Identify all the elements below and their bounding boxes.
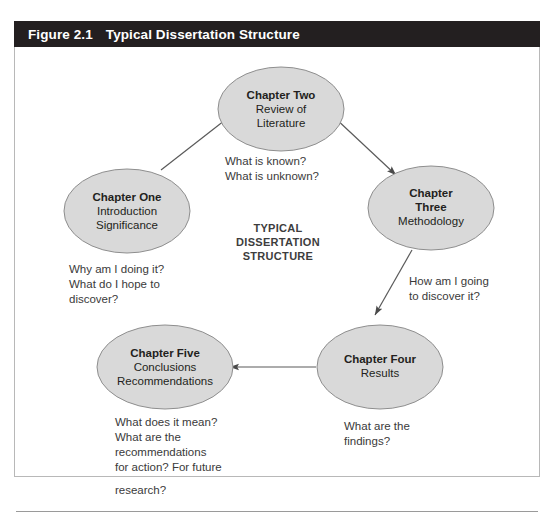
chapter-five-title: Chapter Five <box>130 347 200 359</box>
chapter-one-line-2: Significance <box>96 219 158 231</box>
annotation-below-five-line-2: What are the <box>115 431 181 443</box>
figure-title-label: Typical Dissertation Structure <box>106 27 300 42</box>
annotation-one-to-two-line-2: What is unknown? <box>225 170 319 182</box>
bottom-divider <box>16 511 538 512</box>
center-label-line-3: STRUCTURE <box>243 250 314 262</box>
annotation-three-to-four-line-2: to discover it? <box>409 290 480 302</box>
chapter-two-title: Chapter Two <box>247 89 316 101</box>
center-label-line-1: TYPICAL <box>253 222 302 234</box>
figure-number-label: Figure 2.1 <box>28 27 93 42</box>
node-chapter-five[interactable]: Chapter Five Conclusions Recommendations <box>97 325 233 409</box>
node-chapter-four[interactable]: Chapter Four Results <box>317 325 443 409</box>
arrow-two-to-three <box>334 117 396 175</box>
figure-title-bar: Figure 2.1 Typical Dissertation Structur… <box>14 21 540 47</box>
chapter-two-line-1: Review of <box>256 103 307 115</box>
annotation-below-four-line-1: What are the <box>344 420 410 432</box>
dissertation-structure-diagram: Chapter One Introduction Significance Ch… <box>14 47 540 477</box>
annotation-below-five-line-5: research? <box>115 484 166 496</box>
annotation-below-five: What does it mean? What are the recommen… <box>115 416 222 473</box>
annotation-below-five-line-4: for action? For future <box>115 461 222 473</box>
annotation-below-five-overflow: research? <box>115 484 166 496</box>
annotation-one-to-two: What is known? What is unknown? <box>225 155 319 182</box>
chapter-three-title-line-1: Chapter <box>409 187 453 199</box>
node-chapter-one[interactable]: Chapter One Introduction Significance <box>64 169 190 253</box>
annotation-three-to-four: How am I going to discover it? <box>409 275 489 302</box>
annotation-below-four-line-2: findings? <box>344 435 390 447</box>
center-label: TYPICAL DISSERTATION STRUCTURE <box>236 222 320 262</box>
annotation-below-five-line-1: What does it mean? <box>115 416 217 428</box>
chapter-two-line-2: Literature <box>257 117 306 129</box>
annotation-below-one: Why am I doing it? What do I hope to dis… <box>69 263 164 305</box>
center-label-line-2: DISSERTATION <box>236 236 320 248</box>
arrow-three-to-four <box>375 250 412 315</box>
figure-page: Figure 2.1 Typical Dissertation Structur… <box>0 0 559 525</box>
chapter-five-line-1: Conclusions <box>134 361 197 373</box>
arrow-one-to-two <box>161 117 229 170</box>
chapter-one-line-1: Introduction <box>97 205 157 217</box>
annotation-one-to-two-line-1: What is known? <box>225 155 306 167</box>
chapter-three-title-line-2: Three <box>415 201 446 213</box>
annotation-three-to-four-line-1: How am I going <box>409 275 489 287</box>
chapter-three-line-1: Methodology <box>398 215 464 227</box>
chapter-one-title: Chapter One <box>92 191 161 203</box>
node-chapter-two[interactable]: Chapter Two Review of Literature <box>218 67 344 151</box>
annotation-below-one-line-2: What do I hope to <box>69 278 160 290</box>
annotation-below-four: What are the findings? <box>344 420 410 447</box>
node-chapter-three[interactable]: Chapter Three Methodology <box>368 166 494 250</box>
chapter-five-line-2: Recommendations <box>117 375 213 387</box>
annotation-below-five-line-3: recommendations <box>115 446 207 458</box>
chapter-four-line-1: Results <box>361 367 400 379</box>
annotation-below-one-line-3: discover? <box>69 293 118 305</box>
annotation-below-one-line-1: Why am I doing it? <box>69 263 164 275</box>
chapter-four-title: Chapter Four <box>344 353 417 365</box>
